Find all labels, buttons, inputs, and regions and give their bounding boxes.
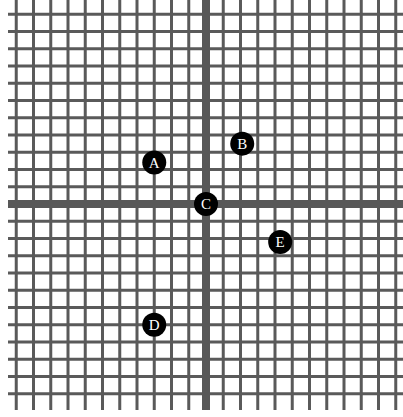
coordinate-plane: ABCDE xyxy=(0,0,403,417)
point-label: A xyxy=(149,155,160,171)
point-label: D xyxy=(149,317,160,333)
point-d: D xyxy=(142,313,166,337)
points: ABCDE xyxy=(142,132,292,337)
point-a: A xyxy=(142,151,166,175)
point-label: B xyxy=(237,136,247,152)
point-e: E xyxy=(268,230,292,254)
point-b: B xyxy=(230,132,254,156)
point-c: C xyxy=(194,192,218,216)
point-label: E xyxy=(276,234,285,250)
point-label: C xyxy=(201,196,211,212)
